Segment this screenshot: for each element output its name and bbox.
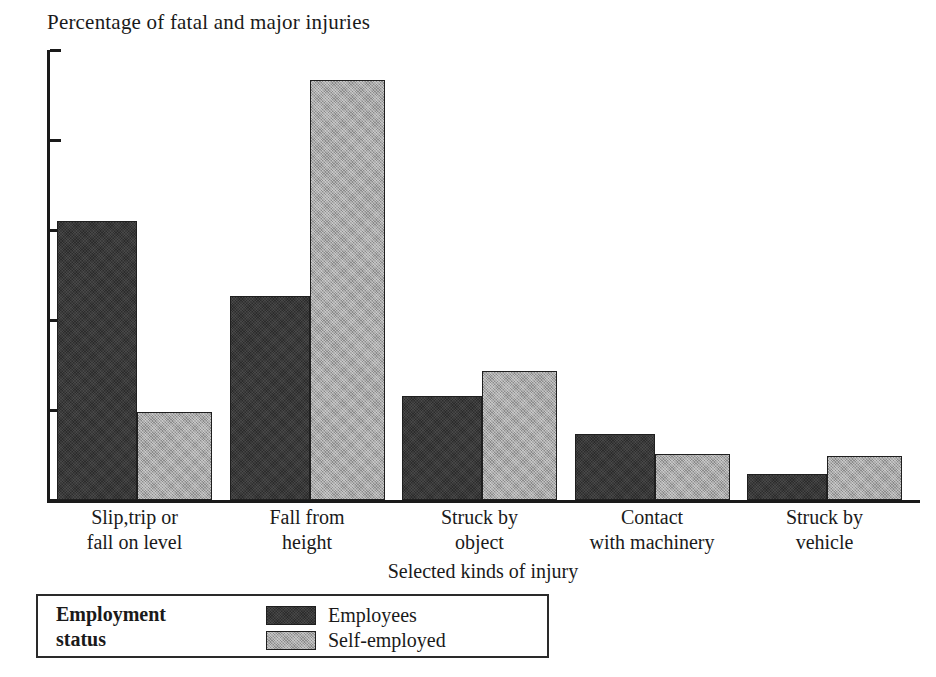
bar-employees-group-5 bbox=[747, 474, 827, 500]
bar-employees-group-1 bbox=[57, 221, 137, 500]
x-axis-category-label-5-line-1: Struck by bbox=[715, 505, 935, 530]
bar-employees-group-4 bbox=[575, 434, 655, 500]
x-axis-title: Selected kinds of injury bbox=[0, 560, 936, 583]
bar-self-employed-group-3 bbox=[482, 371, 557, 500]
bars-layer bbox=[47, 50, 920, 500]
x-axis-title-text: Selected kinds of injury bbox=[388, 560, 579, 583]
x-axis-category-label-5: Struck byvehicle bbox=[715, 505, 935, 555]
legend-title: Employment status bbox=[56, 602, 256, 652]
legend-swatch-employees bbox=[266, 606, 316, 625]
legend: Employment status EmployeesSelf-employed bbox=[36, 594, 549, 658]
x-axis-category-label-5-line-2: vehicle bbox=[715, 530, 935, 555]
legend-label-self-employed: Self-employed bbox=[328, 628, 446, 653]
chart-title: Percentage of fatal and major injuries bbox=[47, 10, 370, 35]
legend-swatch-self-employed bbox=[266, 631, 316, 650]
x-axis-line bbox=[47, 500, 920, 503]
bar-employees-group-3 bbox=[402, 396, 482, 500]
bar-self-employed-group-2 bbox=[310, 80, 385, 500]
legend-label-employees: Employees bbox=[328, 603, 417, 628]
bar-self-employed-group-5 bbox=[827, 456, 902, 500]
legend-row-self-employed: Self-employed bbox=[266, 628, 446, 653]
plot-area bbox=[47, 50, 920, 500]
bar-self-employed-group-4 bbox=[655, 454, 730, 500]
legend-title-line-2: status bbox=[56, 627, 256, 652]
bar-self-employed-group-1 bbox=[137, 412, 212, 500]
legend-entries: EmployeesSelf-employed bbox=[266, 603, 446, 653]
x-axis-category-labels: Slip,trip orfall on levelFall fromheight… bbox=[47, 505, 920, 560]
bar-chart: Percentage of fatal and major injuries 0… bbox=[0, 0, 936, 677]
legend-title-line-1: Employment bbox=[56, 602, 256, 627]
bar-employees-group-2 bbox=[230, 296, 310, 500]
legend-row-employees: Employees bbox=[266, 603, 446, 628]
